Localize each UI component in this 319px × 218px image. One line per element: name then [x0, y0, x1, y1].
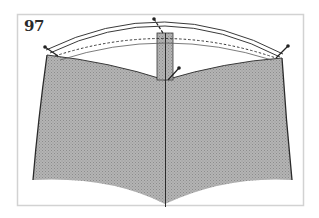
skirt-illustration — [0, 0, 319, 218]
illustration-figure: 97 — [0, 0, 319, 218]
figure-number: 97 — [24, 17, 44, 35]
